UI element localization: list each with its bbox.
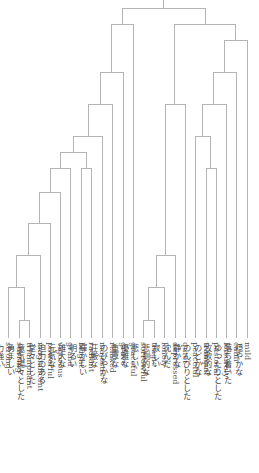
leaf-label-japanese: のどかな bbox=[192, 344, 202, 392]
leaf-label-japanese: 迫力のある bbox=[36, 344, 46, 392]
leaf-label-japanese: のびやかな bbox=[98, 344, 108, 392]
leaf-label-japanese: 重厚な bbox=[109, 344, 119, 392]
leaf-label-japanese: 静かな bbox=[171, 344, 181, 392]
leaf-label-japanese: 穏やかな bbox=[233, 344, 243, 392]
leaf-label-japanese: ゆったりとした bbox=[212, 344, 222, 400]
leaf-label-japanese: 荘厳な bbox=[88, 344, 98, 392]
leaf-label-japanese: 意気揚々とした bbox=[15, 344, 25, 400]
leaf-label-japanese: のんびりとした bbox=[181, 344, 191, 400]
leaf-label-japanese: 優雅な bbox=[119, 344, 129, 392]
leaf-label-japanese: 雄大な bbox=[56, 344, 66, 392]
leaf-label-japanese: 堂々とした bbox=[26, 344, 36, 392]
leaf-label: mild穏やかな bbox=[243, 342, 253, 392]
leaf-label-japanese: 寂しい bbox=[150, 344, 160, 392]
leaf-label-japanese: 明るい bbox=[67, 344, 77, 392]
dendrogram-tree bbox=[0, 0, 259, 340]
leaf-labels: strong力強いstirring勇ましいtriumphant意気揚々としたma… bbox=[0, 342, 259, 473]
leaf-label-japanese: 悲しい bbox=[129, 344, 139, 392]
leaf-label-japanese: 沈んだ bbox=[161, 344, 171, 392]
leaf-label-japanese: 牧歌的な bbox=[202, 344, 212, 392]
leaf-label-japanese: 元気な bbox=[46, 344, 56, 392]
leaf-label-japanese: 輝かしい bbox=[77, 344, 87, 392]
leaf-label-japanese: 悲劇的な bbox=[140, 344, 150, 392]
leaf-label-japanese: 勇ましい bbox=[5, 344, 15, 392]
leaf-label-english: mild bbox=[243, 342, 253, 392]
leaf-label-japanese: 落ち着いた bbox=[222, 344, 232, 392]
